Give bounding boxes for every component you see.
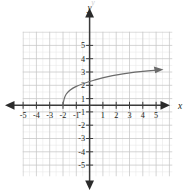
coordinate-plane-svg: -5 -4 -3 -2 -1 1 2 3 4 5 5 4 3 2 1 -1 -2… bbox=[0, 0, 193, 193]
minor-gridlines bbox=[23, 32, 173, 177]
x-tick-label: 3 bbox=[127, 111, 131, 120]
major-gridlines bbox=[23, 32, 173, 177]
x-axis-label: x bbox=[177, 101, 183, 111]
y-tick-label: -3 bbox=[78, 134, 85, 143]
x-tick-label: 5 bbox=[154, 111, 158, 120]
x-tick-label: -3 bbox=[46, 111, 53, 120]
graph-figure: -5 -4 -3 -2 -1 1 2 3 4 5 5 4 3 2 1 -1 -2… bbox=[0, 0, 193, 193]
y-tick-label: 1 bbox=[81, 95, 85, 104]
y-axis-down-arrowhead bbox=[85, 181, 94, 191]
y-tick-label: -4 bbox=[78, 148, 85, 157]
x-tick-label: 4 bbox=[141, 111, 145, 120]
x-axis-right-arrowhead bbox=[161, 101, 171, 110]
y-tick-label: 4 bbox=[81, 55, 85, 64]
x-tick-label: -5 bbox=[20, 111, 27, 120]
y-tick-label: -1 bbox=[78, 108, 85, 117]
y-tick-label: -2 bbox=[78, 121, 85, 130]
square-root-curve bbox=[63, 70, 160, 106]
top-edge-artifact: y bbox=[90, 0, 95, 7]
y-tick-label: 5 bbox=[81, 41, 85, 50]
x-tick-label: -4 bbox=[33, 111, 40, 120]
y-tick-label: 3 bbox=[81, 68, 85, 77]
function-curve-group bbox=[63, 67, 164, 106]
x-tick-label: 1 bbox=[101, 111, 105, 120]
x-tick-label: -2 bbox=[60, 111, 67, 120]
x-axis-left-arrowhead bbox=[5, 101, 15, 110]
y-tick-label: -5 bbox=[78, 161, 85, 170]
x-tick-label: 2 bbox=[114, 111, 118, 120]
